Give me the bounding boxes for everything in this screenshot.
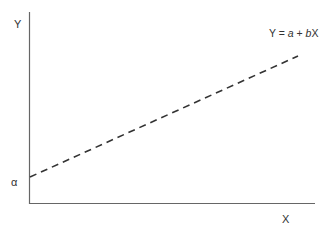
regression-line bbox=[30, 56, 298, 177]
regression-diagram: Y X α Y = a + bX bbox=[0, 0, 329, 235]
x-axis-label: X bbox=[282, 213, 290, 225]
equation-label: Y = a + bX bbox=[269, 27, 318, 39]
y-axis-label: Y bbox=[14, 18, 22, 30]
intercept-label: α bbox=[11, 176, 18, 188]
